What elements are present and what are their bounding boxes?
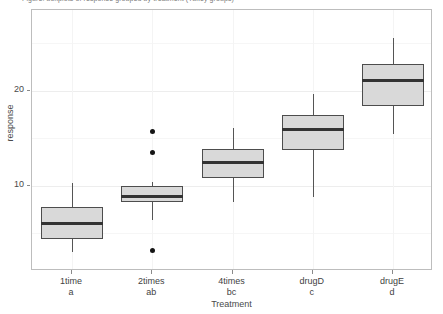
boxplot-figure: Figure: boxplots of response grouped by … — [0, 0, 443, 314]
x-tick-label-2times: 2timesab — [106, 276, 196, 298]
group-letter: c — [267, 287, 357, 298]
x-tick-mark — [312, 270, 313, 274]
whisker-upper — [393, 38, 394, 65]
group-letter: ab — [106, 287, 196, 298]
x-tick-mark — [151, 270, 152, 274]
iqr-box — [362, 64, 424, 106]
category-name: 2times — [138, 276, 165, 286]
whisker-lower — [393, 106, 394, 134]
x-tick-mark — [392, 270, 393, 274]
category-name: drugD — [299, 276, 324, 286]
group-letter: bc — [187, 287, 277, 298]
x-tick-label-drugE: drugEd — [347, 276, 437, 298]
x-tick-label-1time: 1timea — [26, 276, 116, 298]
x-tick-mark — [71, 270, 72, 274]
group-letter: d — [347, 287, 437, 298]
y-tick-label: 10 — [0, 179, 24, 189]
median-line — [362, 79, 424, 82]
group-letter: a — [26, 287, 116, 298]
plot-panel — [31, 9, 432, 270]
y-axis-title: response — [5, 88, 15, 158]
x-tick-label-4times: 4timesbc — [187, 276, 277, 298]
y-tick-mark — [27, 185, 30, 186]
y-tick-mark — [27, 90, 30, 91]
box-drugE — [32, 10, 432, 269]
figure-caption: Figure: boxplots of response grouped by … — [22, 0, 352, 4]
category-name: 4times — [218, 276, 245, 286]
x-axis-title: Treatment — [31, 299, 432, 309]
x-tick-label-drugD: drugDc — [267, 276, 357, 298]
x-tick-mark — [232, 270, 233, 274]
category-name: 1time — [60, 276, 82, 286]
category-name: drugE — [380, 276, 404, 286]
